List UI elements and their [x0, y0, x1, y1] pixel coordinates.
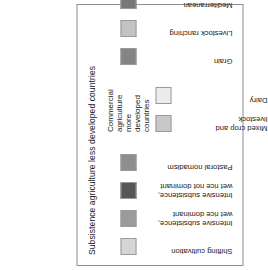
legend-title: Subsistence agriculture less developed c… — [87, 13, 97, 255]
legend-group-heading-commercial-types — [107, 0, 116, 65]
legend-group-heading-commercial: Commercial agriculture more developed co… — [107, 76, 152, 132]
legend-item-label: Mediterranean — [141, 0, 176, 9]
legend-item[interactable]: Livestock ranching — [121, 13, 176, 37]
legend-item[interactable]: Mixed crop and livestock — [155, 108, 175, 132]
legend-item-label: Intensive subsistence, wet rice not domi… — [141, 182, 176, 199]
legend-groups: Shifting cultivation Intensive subsisten… — [107, 13, 176, 255]
legend-swatch — [121, 238, 137, 255]
legend-swatch — [121, 154, 137, 171]
legend-item[interactable]: Pastoral nomadism — [121, 147, 176, 171]
legend-item[interactable]: Dairy — [155, 80, 175, 104]
legend-swatch — [121, 20, 137, 37]
legend-item-label: Shifting cultivation — [141, 246, 176, 255]
legend-item-label: Pastoral nomadism — [141, 162, 176, 171]
legend-items-commercial-types: Grain Livestock ranching Mediterranean C… — [121, 0, 176, 65]
legend-swatch — [155, 115, 171, 132]
legend-swatch — [121, 182, 137, 199]
legend-swatch — [121, 210, 137, 227]
legend-item-label: Grain — [141, 56, 176, 65]
legend-group-commercial: Commercial agriculture more developed co… — [107, 76, 176, 132]
legend-item[interactable]: Shifting cultivation — [121, 231, 176, 255]
legend-group-heading-subsistence — [107, 143, 116, 255]
legend-items-subsistence: Shifting cultivation Intensive subsisten… — [121, 143, 176, 255]
legend-item[interactable]: Grain — [121, 41, 176, 65]
legend-group-commercial-types: Grain Livestock ranching Mediterranean C… — [107, 0, 176, 65]
legend-swatch — [121, 48, 137, 65]
map-legend: Subsistence agriculture less developed c… — [77, 4, 176, 266]
legend-item-label: Intensive subsistence, wet rice dominant — [141, 210, 176, 227]
legend-swatch — [121, 0, 137, 9]
legend-group-subsistence: Shifting cultivation Intensive subsisten… — [107, 143, 176, 255]
legend-swatch — [155, 87, 171, 104]
legend-item[interactable]: Intensive subsistence, wet rice not domi… — [121, 175, 176, 199]
legend-rotation-wrapper: Subsistence agriculture less developed c… — [77, 4, 176, 266]
legend-item[interactable]: Mediterranean — [121, 0, 176, 9]
legend-item-label: Livestock ranching — [141, 28, 176, 37]
legend-item[interactable]: Intensive subsistence, wet rice dominant — [121, 203, 176, 227]
legend-items-commercial: Mixed crop and livestock Dairy — [155, 76, 175, 132]
